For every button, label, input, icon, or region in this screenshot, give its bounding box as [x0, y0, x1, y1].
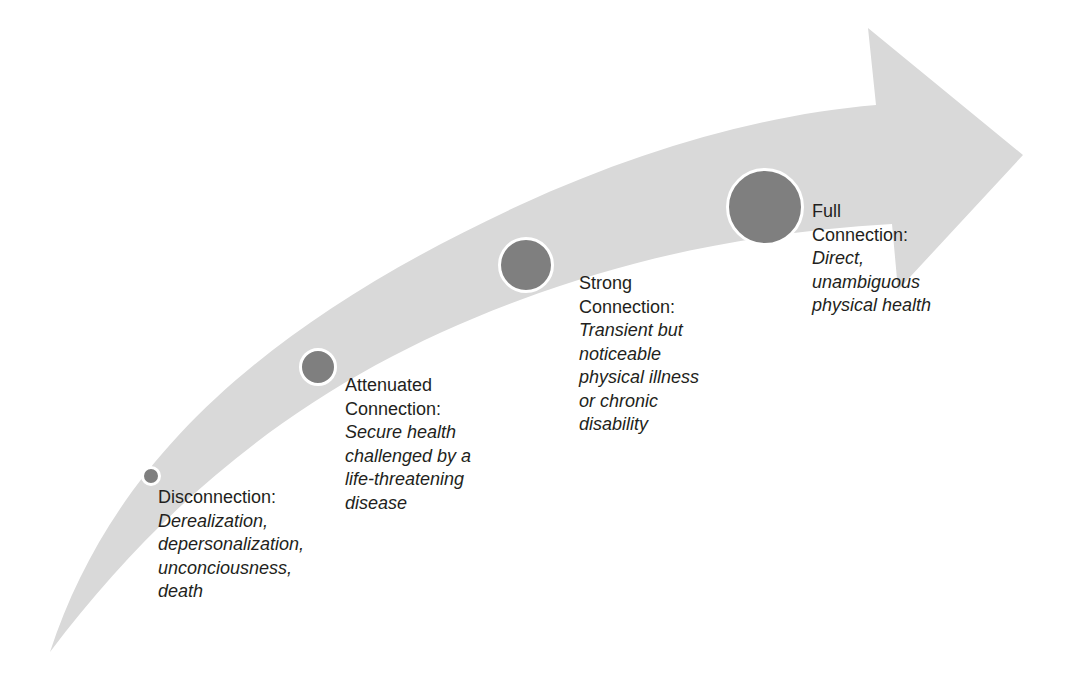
stage-description-line: death: [158, 580, 304, 604]
stage-title: Connection:: [345, 398, 471, 422]
stage-description-line: physical illness: [579, 366, 699, 390]
stage-description-line: noticeable: [579, 343, 699, 367]
stage-description-line: Secure health: [345, 421, 471, 445]
stage-node-full: [726, 168, 804, 246]
stage-title: Strong: [579, 272, 699, 296]
stage-description-line: disability: [579, 413, 699, 437]
stage-description-line: unconciousness,: [158, 557, 304, 581]
stage-description-line: or chronic: [579, 390, 699, 414]
stage-title: Full: [812, 200, 931, 224]
stage-title: Attenuated: [345, 374, 471, 398]
stage-label-full: Full Connection: Direct, unambiguous phy…: [812, 200, 931, 318]
stage-description-line: depersonalization,: [158, 533, 304, 557]
stage-node-attenuated: [299, 348, 337, 386]
connection-spectrum-diagram: Disconnection: Derealization, depersonal…: [0, 0, 1078, 683]
stage-description-line: unambiguous: [812, 271, 931, 295]
stage-node-strong: [498, 237, 554, 293]
stage-title: Connection:: [579, 296, 699, 320]
stage-description-line: disease: [345, 492, 471, 516]
stage-description-line: Direct,: [812, 247, 931, 271]
stage-title: Disconnection:: [158, 486, 304, 510]
stage-node-disconnection: [141, 466, 161, 486]
stage-description-line: challenged by a: [345, 445, 471, 469]
stage-label-attenuated: Attenuated Connection: Secure health cha…: [345, 374, 471, 515]
stage-description-line: Derealization,: [158, 510, 304, 534]
stage-description-line: physical health: [812, 294, 931, 318]
stage-label-strong: Strong Connection: Transient but noticea…: [579, 272, 699, 437]
stage-description-line: Transient but: [579, 319, 699, 343]
stage-title: Connection:: [812, 224, 931, 248]
stage-description-line: life-threatening: [345, 468, 471, 492]
stage-label-disconnection: Disconnection: Derealization, depersonal…: [158, 486, 304, 604]
